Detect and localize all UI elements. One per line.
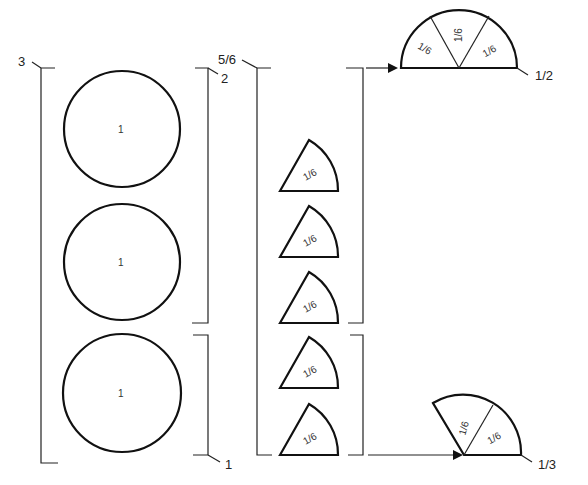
- third-sector-result: 1/6 1/6: [433, 395, 532, 462]
- label-lower-1: 1: [225, 457, 232, 472]
- upper-right-bracket: [192, 68, 218, 323]
- sector-5: 1/6: [280, 404, 338, 455]
- sector-4: 1/6: [280, 337, 338, 388]
- left-total-bracket: [32, 62, 58, 463]
- sector-3: 1/6: [280, 272, 338, 323]
- arrow-to-third: [368, 450, 463, 460]
- sector-2-label: 1/6: [301, 232, 319, 249]
- half-part-1-label: 1/6: [416, 40, 434, 57]
- label-total-5-6: 5/6: [218, 52, 236, 67]
- sector-2: 1/6: [280, 206, 338, 257]
- middle-upper-bracket: [346, 68, 363, 323]
- third-part-2-label: 1/6: [485, 429, 503, 446]
- label-half: 1/2: [535, 68, 553, 83]
- sector-4-label: 1/6: [301, 363, 319, 380]
- middle-lower-bracket: [348, 335, 363, 455]
- circle-3-label: 1: [118, 388, 124, 399]
- sector-1-label: 1/6: [301, 166, 319, 183]
- circle-1: 1: [64, 71, 180, 187]
- half-part-2-label: 1/6: [453, 28, 464, 42]
- arrow-to-half: [366, 63, 398, 73]
- circle-1-label: 1: [118, 124, 124, 135]
- sector-1: 1/6: [280, 140, 338, 191]
- label-upper-2: 2: [221, 71, 228, 86]
- label-total-3: 3: [18, 54, 25, 69]
- circle-3: 1: [63, 334, 181, 452]
- sector-3-label: 1/6: [301, 298, 319, 315]
- fraction-diagram: 3 1 1 1 2 1 5/6 1/6 1/6: [0, 0, 588, 485]
- circle-2: 1: [64, 204, 180, 320]
- label-third: 1/3: [538, 457, 556, 472]
- third-part-1-label: 1/6: [457, 420, 471, 437]
- lower-right-bracket: [193, 335, 220, 462]
- half-circle-result: 1/6 1/6 1/6: [401, 10, 528, 75]
- half-part-3-label: 1/6: [481, 42, 499, 59]
- circle-2-label: 1: [118, 257, 124, 268]
- sector-5-label: 1/6: [301, 430, 319, 447]
- middle-total-bracket: [242, 60, 272, 455]
